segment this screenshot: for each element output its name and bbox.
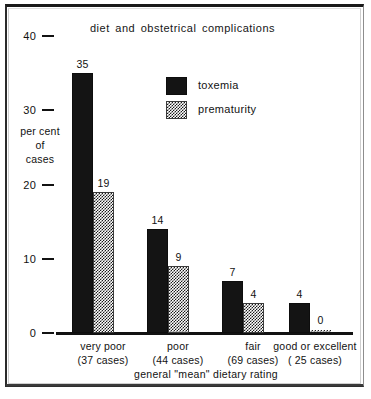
y-tick-10-dash	[42, 258, 54, 260]
bar-value-toxemia-poor: 14	[140, 214, 175, 226]
bar-toxemia-poor[interactable]	[147, 229, 168, 333]
solid-black-square-icon	[166, 77, 187, 95]
bar-value-toxemia-very-poor: 35	[65, 58, 100, 70]
y-tick-30-label: 30	[23, 103, 36, 117]
x-category-good-or-excellent: good or excellent ( 25 cases)	[260, 339, 370, 367]
x-category-fair-name: fair	[245, 340, 260, 352]
x-axis-title: general "mean" dietary rating	[56, 368, 356, 380]
y-axis-caption-line-1: per cent	[12, 124, 68, 138]
y-tick-0: 0	[0, 326, 56, 340]
x-category-good-or-excellent-name: good or excellent	[273, 340, 356, 352]
x-category-good-or-excellent-cases: ( 25 cases)	[260, 353, 370, 367]
y-tick-0-dash	[42, 332, 54, 334]
y-axis-caption: per cent of cases	[12, 124, 68, 166]
bar-value-prematurity-poor: 9	[161, 251, 196, 263]
legend-label-toxemia: toxemia	[198, 79, 239, 91]
legend-label-prematurity: prematurity	[198, 103, 256, 115]
bar-value-prematurity-very-poor: 19	[86, 177, 121, 189]
bar-value-prematurity-fair: 4	[236, 288, 271, 300]
bar-value-toxemia-fair: 7	[215, 266, 250, 278]
y-tick-40-dash	[42, 35, 54, 37]
bar-prematurity-very-poor[interactable]	[93, 192, 114, 333]
y-tick-20: 20	[0, 178, 56, 192]
y-tick-10-label: 10	[23, 252, 36, 266]
bar-prematurity-good-or-excellent[interactable]	[310, 330, 331, 333]
x-category-very-poor-name: very poor	[80, 340, 126, 352]
y-axis-caption-line-3: cases	[12, 152, 68, 166]
y-tick-40-label: 40	[23, 29, 36, 43]
bar-value-toxemia-good-or-excellent: 4	[282, 288, 317, 300]
bar-value-prematurity-good-or-excellent: 0	[303, 314, 338, 326]
figure-container: diet and obstetrical complications per c…	[0, 0, 371, 399]
y-tick-20-label: 20	[23, 178, 36, 192]
y-tick-30-dash	[42, 109, 54, 111]
chart-title: diet and obstetrical complications	[90, 22, 340, 34]
bar-prematurity-fair[interactable]	[243, 303, 264, 333]
y-tick-10: 10	[0, 252, 56, 266]
plot-area: diet and obstetrical complications per c…	[0, 0, 371, 399]
bar-toxemia-very-poor[interactable]	[72, 73, 93, 333]
y-tick-0-label: 0	[30, 326, 36, 340]
bar-prematurity-poor[interactable]	[168, 266, 189, 333]
x-category-poor-name: poor	[167, 340, 189, 352]
y-axis-caption-line-2: of	[12, 138, 68, 152]
y-tick-20-dash	[42, 184, 54, 186]
checkered-square-icon	[166, 101, 187, 119]
y-tick-40: 40	[0, 29, 56, 43]
y-tick-30: 30	[0, 103, 56, 117]
